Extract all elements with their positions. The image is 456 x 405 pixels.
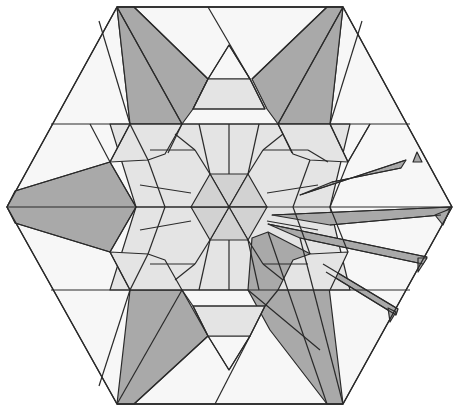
diagram-canvas: Hexagonal crease pattern tessellation	[0, 0, 456, 405]
hexagon-crease-pattern	[0, 0, 456, 405]
